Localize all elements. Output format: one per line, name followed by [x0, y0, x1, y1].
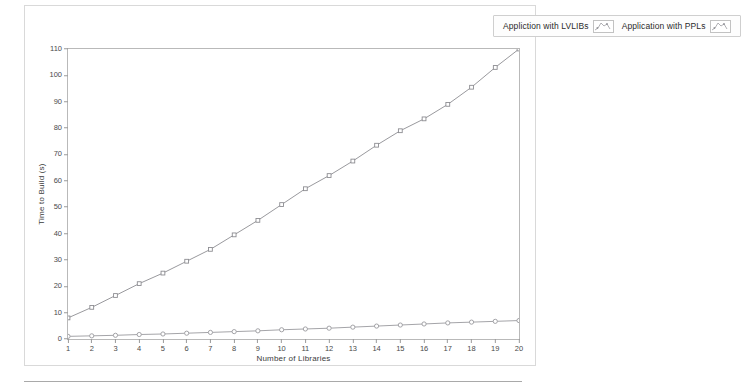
x-axis-tick: 2 [90, 339, 94, 353]
data-point-marker [303, 187, 307, 191]
legend-label-lvlibs: Appliction with LVLIBs [503, 22, 589, 31]
y-axis-tick: 110 [50, 45, 68, 53]
y-axis-tick-label: 90 [54, 98, 62, 106]
data-point-marker [470, 85, 474, 89]
x-axis-tick-mark [186, 339, 187, 343]
x-axis-tick-label: 20 [515, 345, 523, 353]
y-axis-tick-mark [64, 75, 68, 76]
x-axis-tick: 7 [208, 339, 212, 353]
x-axis-tick: 16 [420, 339, 428, 353]
x-axis-tick-label: 2 [90, 345, 94, 353]
x-axis-tick-label: 9 [256, 345, 260, 353]
x-axis-tick-mark [471, 339, 472, 343]
data-point-marker [517, 318, 519, 322]
data-point-marker [517, 49, 519, 51]
data-point-marker [469, 320, 473, 324]
data-point-marker [90, 305, 94, 309]
data-point-marker [446, 102, 450, 106]
data-point-marker [493, 319, 497, 323]
x-axis-tick: 17 [444, 339, 452, 353]
y-axis-tick: 70 [54, 151, 68, 159]
line-plot-icon[interactable] [710, 20, 731, 33]
y-axis-tick: 60 [54, 177, 68, 185]
x-axis-tick-mark [91, 339, 92, 343]
data-point-marker [303, 327, 307, 331]
data-point-marker [374, 324, 378, 328]
y-axis-tick-mark [64, 312, 68, 313]
x-axis-tick-mark [329, 339, 330, 343]
data-point-marker [137, 282, 141, 286]
data-point-marker [68, 316, 70, 320]
data-point-marker [68, 334, 70, 338]
y-axis-tick-mark [64, 128, 68, 129]
x-axis-tick-label: 12 [325, 345, 333, 353]
x-axis-tick-label: 14 [372, 345, 380, 353]
x-axis-tick-mark [400, 339, 401, 343]
x-axis-tick-label: 19 [491, 345, 499, 353]
y-axis-tick-label: 30 [54, 256, 62, 264]
x-axis-tick-label: 13 [349, 345, 357, 353]
y-axis-tick: 80 [54, 124, 68, 132]
x-axis-tick-mark [376, 339, 377, 343]
data-point-marker [185, 259, 189, 263]
x-axis-tick-label: 15 [396, 345, 404, 353]
x-axis-tick: 5 [161, 339, 165, 353]
x-axis-tick: 13 [349, 339, 357, 353]
data-point-marker [113, 333, 117, 337]
y-axis-tick: 50 [54, 203, 68, 211]
x-axis-tick: 18 [467, 339, 475, 353]
x-axis-tick: 14 [372, 339, 380, 353]
x-axis-tick-label: 10 [277, 345, 285, 353]
x-axis-tick: 8 [232, 339, 236, 353]
data-point-marker [327, 174, 331, 178]
y-axis-tick: 100 [49, 72, 68, 80]
data-point-marker [280, 328, 284, 332]
y-axis-tick-label: 20 [54, 283, 62, 291]
legend-entry-lvlibs[interactable]: Appliction with LVLIBs [499, 20, 618, 33]
y-axis-tick-mark [64, 286, 68, 287]
y-axis-tick-mark [64, 154, 68, 155]
y-axis-title: Time to Build (s) [35, 48, 47, 340]
y-axis-tick: 40 [54, 230, 68, 238]
data-point-marker [375, 143, 379, 147]
data-point-marker [232, 233, 236, 237]
data-point-marker [209, 247, 213, 251]
x-axis-tick-label: 4 [137, 345, 141, 353]
x-axis-tick: 19 [491, 339, 499, 353]
x-axis-tick: 9 [256, 339, 260, 353]
y-axis-tick-label: 100 [49, 72, 62, 80]
x-axis-tick-mark [495, 339, 496, 343]
series-line [68, 321, 519, 337]
legend-label-ppls: Application with PPLs [622, 22, 706, 31]
y-axis-tick-mark [64, 180, 68, 181]
chart-series [68, 49, 519, 320]
x-axis-tick-mark [424, 339, 425, 343]
chart-legend[interactable]: Appliction with LVLIBs Application with … [493, 15, 741, 37]
x-axis-tick-label: 8 [232, 345, 236, 353]
data-point-marker [351, 159, 355, 163]
x-axis-tick-mark [519, 339, 520, 343]
y-axis-tick-label: 40 [54, 230, 62, 238]
x-axis-tick-mark [281, 339, 282, 343]
y-axis-tick-mark [64, 259, 68, 260]
data-point-marker [280, 203, 284, 207]
y-axis-tick: 20 [54, 283, 68, 291]
y-axis-tick-mark [64, 101, 68, 102]
data-point-marker [422, 117, 426, 121]
x-axis-tick: 4 [137, 339, 141, 353]
y-axis-tick: 30 [54, 256, 68, 264]
data-point-marker [161, 271, 165, 275]
x-axis-tick-mark [447, 339, 448, 343]
x-axis-tick: 1 [66, 339, 70, 353]
y-axis-tick-mark [64, 49, 68, 50]
line-plot-icon[interactable] [593, 20, 614, 33]
x-axis-tick: 11 [301, 339, 309, 353]
y-axis-tick-label: 80 [54, 124, 62, 132]
data-point-marker [232, 330, 236, 334]
x-axis-tick: 3 [113, 339, 117, 353]
x-axis-tick-label: 3 [113, 345, 117, 353]
data-point-marker [327, 326, 331, 330]
plot-canvas [68, 49, 519, 339]
graph-container: Appliction with LVLIBs Application with … [24, 5, 536, 366]
legend-entry-ppls[interactable]: Application with PPLs [618, 20, 735, 33]
